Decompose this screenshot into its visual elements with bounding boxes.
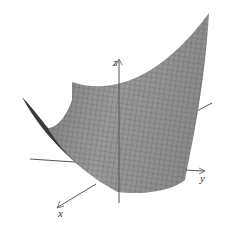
z-axis-label: z	[112, 56, 118, 68]
x-axis-label: x	[57, 207, 63, 219]
y-axis-label: y	[199, 172, 205, 184]
x-axis	[58, 184, 96, 207]
surface-mesh	[48, 13, 209, 193]
surface-plot: z y x	[0, 0, 230, 234]
y-axis	[185, 170, 204, 171]
